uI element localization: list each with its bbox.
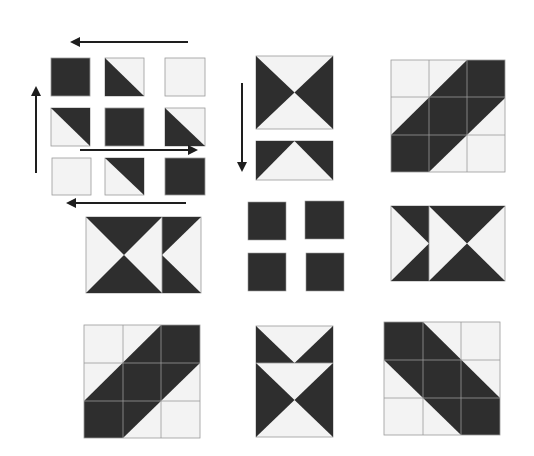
hst-tile [105, 158, 144, 195]
panel-hourglass-right-half [86, 217, 201, 293]
panel-diagonal-ascending-top [391, 60, 505, 172]
hst-tile [105, 58, 144, 96]
panel-four-squares [248, 201, 344, 291]
panel-diagonal-ascending-bottom [84, 325, 200, 438]
quilt-diagram: Quilt block piecing diagram [0, 0, 534, 456]
hst-tile [51, 108, 90, 146]
panel-nine-patch [51, 58, 205, 195]
panel-diagonal-descending [384, 322, 500, 435]
panel-left-half-hourglass [391, 206, 505, 281]
panel-half-strip-hourglass [256, 326, 333, 437]
hst-tile [165, 108, 205, 146]
panel-hourglass-half-strip [256, 56, 333, 180]
